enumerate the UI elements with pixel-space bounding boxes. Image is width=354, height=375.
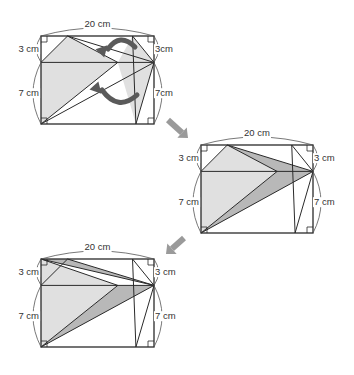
- fold-line: [292, 145, 295, 233]
- right-lower-height-label: 7 cm: [314, 196, 335, 207]
- width-label: 20 cm: [244, 127, 270, 138]
- right-upper-height-label: 3 cm: [314, 152, 335, 163]
- figure-2: 20 cm3 cm7 cm3 cm7 cm: [177, 127, 335, 233]
- step-arrow-2-to-3-icon: [166, 238, 184, 254]
- figure-3: 20 cm3 cm7 cm3 cm7 cm: [17, 241, 176, 347]
- right-angle-mark: [148, 259, 154, 265]
- width-label: 20 cm: [85, 18, 111, 29]
- right-angle-mark: [41, 36, 47, 42]
- left-upper-height-label: 3 cm: [18, 266, 39, 277]
- dimension-arc-top: [41, 28, 154, 36]
- fold-line: [136, 285, 154, 347]
- left-lower-height-label: 7 cm: [178, 196, 199, 207]
- right-angle-mark: [201, 145, 207, 151]
- left-lower-height-label: 7 cm: [18, 310, 39, 321]
- right-angle-mark: [307, 227, 313, 233]
- right-angle-mark: [148, 36, 154, 42]
- step-arrow-1-to-2-icon: [168, 120, 188, 138]
- dimension-arc-top: [201, 137, 313, 145]
- fold-line: [133, 259, 136, 347]
- right-angle-mark: [148, 341, 154, 347]
- right-upper-height-label: 3cm: [155, 43, 173, 54]
- right-lower-height-label: 7 cm: [155, 310, 176, 321]
- figure-1: 20 cm3 cm7 cm3cm7cm: [17, 18, 174, 124]
- left-lower-height-label: 7 cm: [18, 87, 39, 98]
- width-label: 20 cm: [85, 241, 111, 252]
- folding-diagram: 20 cm3 cm7 cm3cm7cm20 cm3 cm7 cm3 cm7 cm…: [0, 0, 354, 375]
- left-upper-height-label: 3 cm: [178, 152, 199, 163]
- right-lower-height-label: 7cm: [155, 87, 173, 98]
- right-upper-height-label: 3 cm: [155, 266, 176, 277]
- right-angle-mark: [148, 118, 154, 124]
- dimension-arc-top: [41, 251, 154, 259]
- fold-line: [295, 171, 313, 233]
- left-upper-height-label: 3 cm: [18, 43, 39, 54]
- right-angle-mark: [307, 145, 313, 151]
